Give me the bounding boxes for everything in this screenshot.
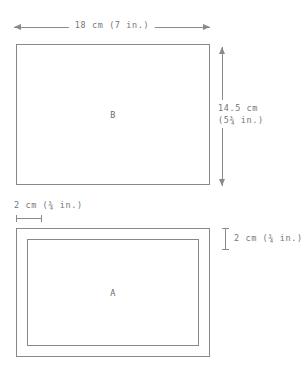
border-width-label-right: 2 cm (¾ in.) (234, 233, 303, 244)
border-width-label-left: 2 cm (¾ in.) (14, 200, 83, 211)
rectangle-a-inner: A (27, 239, 199, 346)
diagram-canvas: 18 cm (7 in.) B 14.5 cm (5¾ in.) 2 cm (¾… (0, 0, 304, 370)
border-width-marker-left (16, 215, 42, 222)
height-dimension-label-in: (5¾ in.) (218, 114, 264, 126)
marker-tick-start (222, 228, 229, 229)
height-dimension-label-cm: 14.5 cm (218, 102, 264, 114)
rectangle-a-outer-mat: A (16, 228, 210, 357)
marker-tick-end (41, 215, 42, 222)
rectangle-b: B (16, 44, 210, 185)
arrowhead-right-icon (203, 24, 210, 30)
rectangle-b-label: B (110, 110, 116, 120)
marker-tick-start (16, 215, 17, 222)
height-dimension-label: 14.5 cm (5¾ in.) (215, 100, 267, 128)
width-dimension-label: 18 cm (7 in.) (69, 20, 155, 30)
marker-line (225, 228, 226, 250)
width-dimension-arrow: 18 cm (7 in.) (14, 21, 210, 34)
marker-line (16, 218, 42, 219)
arrowhead-left-icon (14, 24, 21, 30)
arrowhead-down-icon (219, 179, 225, 186)
rectangle-a-label: A (110, 288, 116, 298)
border-width-marker-right (222, 228, 229, 250)
arrowhead-up-icon (219, 47, 225, 54)
marker-tick-end (222, 249, 229, 250)
